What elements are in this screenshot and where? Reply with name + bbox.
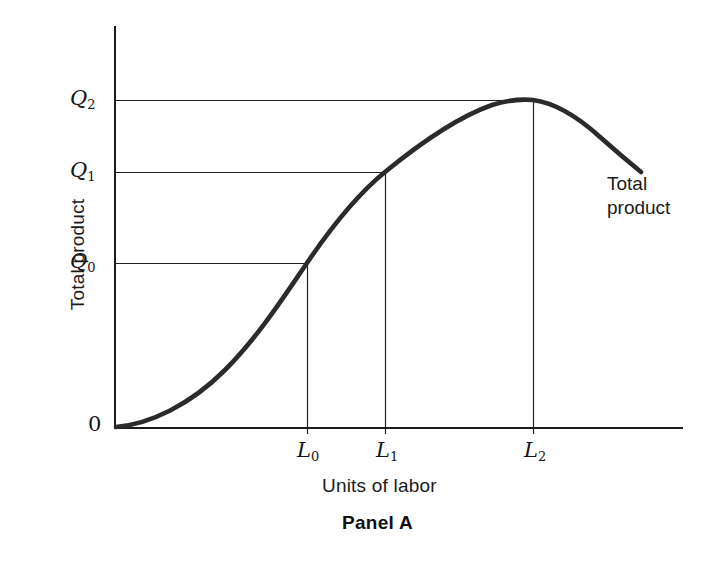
- x-axis-title: Units of labor: [322, 476, 437, 495]
- y-axis-title: Total product: [68, 165, 87, 345]
- curve-annotation-line2: product: [607, 196, 670, 220]
- curve-annotation: Total product: [607, 172, 670, 221]
- x-tick-label-l0: L0: [297, 440, 319, 461]
- origin-label: 0: [88, 414, 101, 435]
- curve-annotation-line1: Total: [607, 172, 670, 196]
- x-tick-label-l2: L2: [524, 440, 546, 461]
- y-tick-label-q2: Q2: [70, 88, 96, 109]
- x-tick-label-l1: L1: [376, 440, 398, 461]
- panel-caption: Panel A: [342, 513, 413, 532]
- total-product-figure: Q2 Q1 Q0 0 L0 L1 L2 Total product Units …: [0, 0, 719, 561]
